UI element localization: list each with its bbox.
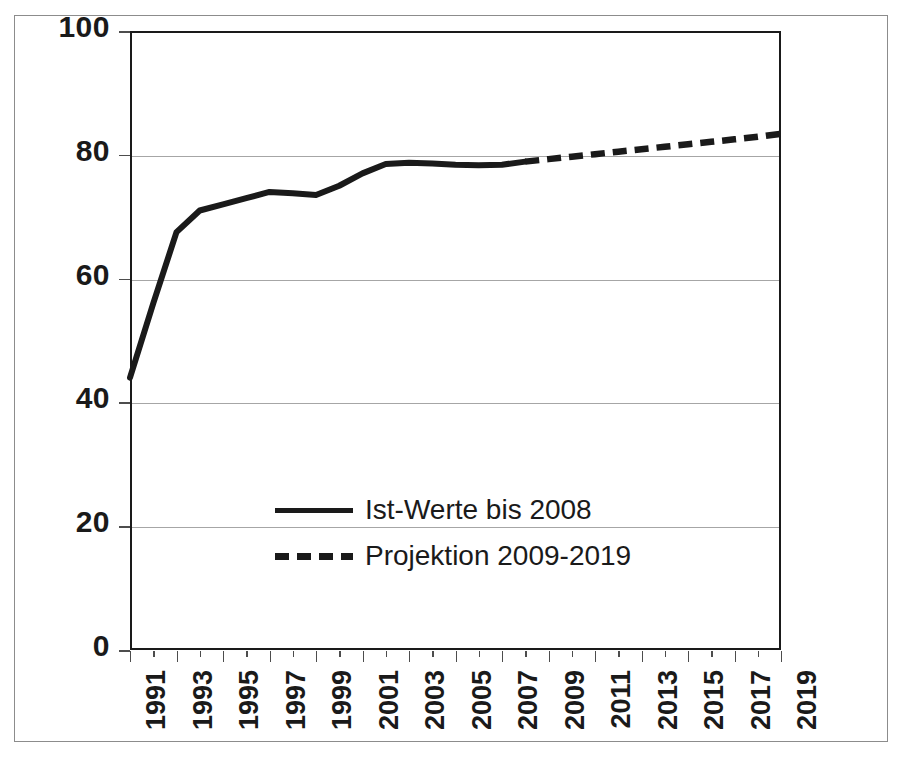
x-tick-mark-2000 xyxy=(339,651,340,657)
x-tick-mark-2007 xyxy=(502,651,503,662)
gridline-y-40 xyxy=(132,403,779,404)
gridline-y-60 xyxy=(132,280,779,281)
x-tick-label-2017: 2017 xyxy=(746,670,777,730)
x-tick-label-1999: 1999 xyxy=(327,670,358,730)
x-tick-mark-2019 xyxy=(781,651,782,662)
x-tick-mark-2015 xyxy=(688,651,689,662)
x-tick-mark-2003 xyxy=(409,651,410,662)
legend-swatch-dashed-line xyxy=(275,542,353,570)
x-tick-mark-2001 xyxy=(363,651,364,662)
x-tick-mark-1994 xyxy=(200,651,201,657)
x-tick-label-2005: 2005 xyxy=(467,670,498,730)
x-tick-label-1997: 1997 xyxy=(281,670,312,730)
x-tick-mark-1993 xyxy=(177,651,178,662)
x-tick-mark-2010 xyxy=(572,651,573,657)
legend-label-ist-werte: Ist-Werte bis 2008 xyxy=(365,494,592,526)
legend-item-projektion: Projektion 2009-2019 xyxy=(275,533,631,579)
legend-swatch-solid-line xyxy=(275,496,353,524)
x-tick-mark-1992 xyxy=(153,651,154,657)
x-tick-mark-2002 xyxy=(386,651,387,657)
x-tick-label-2007: 2007 xyxy=(513,670,544,730)
x-tick-mark-2008 xyxy=(525,651,526,657)
x-tick-mark-2009 xyxy=(549,651,550,662)
x-tick-mark-1998 xyxy=(293,651,294,657)
x-tick-label-2003: 2003 xyxy=(420,670,451,730)
x-tick-label-2015: 2015 xyxy=(699,670,730,730)
x-tick-label-2009: 2009 xyxy=(560,670,591,730)
x-tick-mark-2014 xyxy=(665,651,666,657)
x-tick-label-2013: 2013 xyxy=(653,670,684,730)
x-tick-label-1991: 1991 xyxy=(141,670,172,730)
x-tick-mark-1997 xyxy=(270,651,271,662)
x-tick-label-2011: 2011 xyxy=(606,670,637,729)
x-tick-mark-2004 xyxy=(432,651,433,657)
x-tick-mark-1995 xyxy=(223,651,224,662)
x-tick-mark-1996 xyxy=(246,651,247,657)
x-tick-label-1993: 1993 xyxy=(188,670,219,730)
legend-label-projektion: Projektion 2009-2019 xyxy=(365,540,631,572)
x-tick-mark-2012 xyxy=(618,651,619,657)
legend-item-ist-werte: Ist-Werte bis 2008 xyxy=(275,487,631,533)
x-tick-label-2001: 2001 xyxy=(374,670,405,730)
x-tick-mark-2005 xyxy=(456,651,457,662)
x-tick-mark-2006 xyxy=(479,651,480,657)
x-tick-label-1995: 1995 xyxy=(234,670,265,730)
chart-legend: Ist-Werte bis 2008 Projektion 2009-2019 xyxy=(275,487,631,579)
gridline-y-80 xyxy=(132,156,779,157)
x-tick-mark-1991 xyxy=(130,651,131,662)
x-tick-mark-2011 xyxy=(595,651,596,662)
x-tick-label-2019: 2019 xyxy=(792,670,823,730)
x-tick-mark-2013 xyxy=(642,651,643,662)
chart-figure: 020406080100 199119931995199719992001200… xyxy=(0,0,905,759)
x-tick-mark-1999 xyxy=(316,651,317,662)
x-tick-mark-2016 xyxy=(711,651,712,657)
x-tick-mark-2017 xyxy=(735,651,736,662)
x-tick-mark-2018 xyxy=(758,651,759,657)
